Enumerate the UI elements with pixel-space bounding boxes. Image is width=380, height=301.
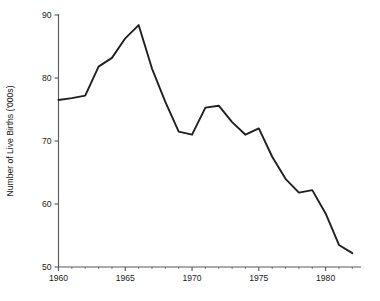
- x-tick-label: 1970: [182, 273, 201, 283]
- data-line-live-births: [59, 25, 353, 253]
- y-axis-title-text: Number of Live Births ('000s): [5, 85, 15, 196]
- y-tick-label: 90: [42, 10, 52, 20]
- data-series-group: [59, 25, 353, 253]
- y-tick-label: 60: [42, 199, 52, 209]
- chart-canvas: 5060708090 19601965197019751980 Number o…: [0, 0, 380, 301]
- y-axis-title: Number of Live Births ('000s): [5, 85, 15, 196]
- x-tick-label: 1975: [249, 273, 268, 283]
- y-tick-label: 70: [42, 136, 52, 146]
- x-axis: 19601965197019751980: [49, 267, 361, 283]
- y-tick-label: 50: [42, 262, 52, 272]
- y-tick-label: 80: [42, 73, 52, 83]
- x-tick-label: 1960: [49, 273, 68, 283]
- y-axis: 5060708090: [42, 10, 59, 272]
- line-chart: 5060708090 19601965197019751980 Number o…: [0, 0, 380, 301]
- x-tick-label: 1965: [116, 273, 135, 283]
- x-tick-label: 1980: [316, 273, 335, 283]
